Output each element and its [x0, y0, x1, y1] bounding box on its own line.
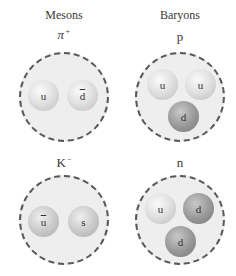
mesons-heading: Mesons	[45, 8, 82, 23]
up-quark: u	[147, 69, 178, 100]
baryons-heading: Baryons	[160, 8, 200, 23]
down-quark: d	[165, 226, 196, 257]
anti-down-quark: d	[67, 80, 98, 111]
anti-up-quark: u	[28, 206, 59, 237]
up-quark: u	[28, 80, 59, 111]
up-quark: u	[185, 69, 216, 100]
down-quark: d	[168, 101, 199, 132]
down-quark: d	[183, 193, 214, 224]
neutron-label: n	[177, 155, 184, 171]
proton-label: p	[177, 29, 184, 45]
up-quark: u	[145, 193, 176, 224]
pion-plus-label: π+	[58, 27, 71, 43]
strange-quark: s	[68, 206, 99, 237]
kaon-minus-label: K−	[57, 155, 72, 171]
